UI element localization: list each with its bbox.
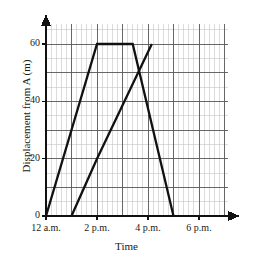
axis-lines — [41, 14, 240, 221]
x-axis-title: Time — [0, 240, 253, 252]
x-tick-label-4pm: 4 p.m. — [125, 222, 171, 233]
y-axis-arrow — [41, 14, 51, 26]
x-axis-arrow — [228, 211, 240, 221]
y-tick-label-0: 0 — [14, 209, 40, 220]
x-tick-label-12am: 12 a.m. — [23, 222, 69, 233]
x-tick-label-2pm: 2 p.m. — [74, 222, 120, 233]
y-axis-title: Displacement from A (m) — [20, 41, 32, 191]
x-tick-label-6pm: 6 p.m. — [176, 222, 222, 233]
displacement-time-graph: 0 20 40 60 12 a.m. 2 p.m. 4 p.m. 6 p.m. … — [0, 0, 253, 256]
tick-marks — [42, 44, 199, 220]
